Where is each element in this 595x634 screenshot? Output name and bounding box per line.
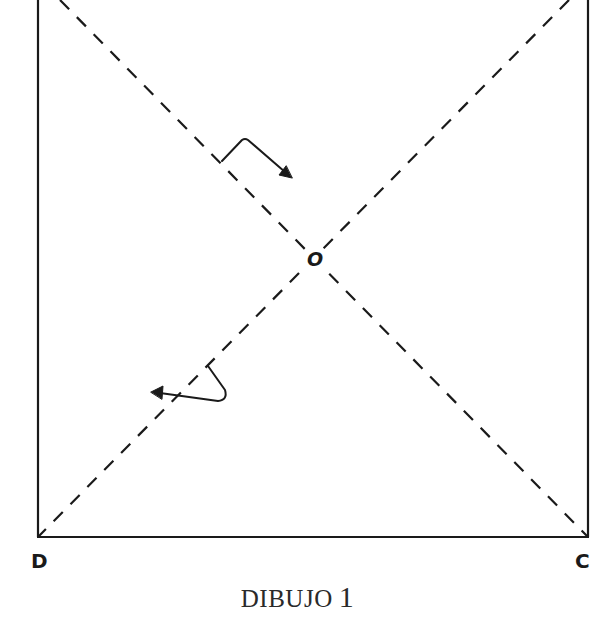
vertex-label-c: C — [575, 551, 590, 571]
square-fold-diagram — [0, 0, 595, 634]
diagonal-bd — [39, 0, 569, 536]
vertex-label-center: O — [306, 250, 324, 269]
caption-text: DIBUJO — [241, 585, 333, 612]
vertex-label-d: D — [31, 551, 48, 571]
arrowhead-icon — [151, 386, 163, 399]
figure-caption: DIBUJO1 — [0, 580, 595, 614]
caption-number: 1 — [339, 580, 355, 613]
fold-arrow-upper — [222, 139, 292, 178]
